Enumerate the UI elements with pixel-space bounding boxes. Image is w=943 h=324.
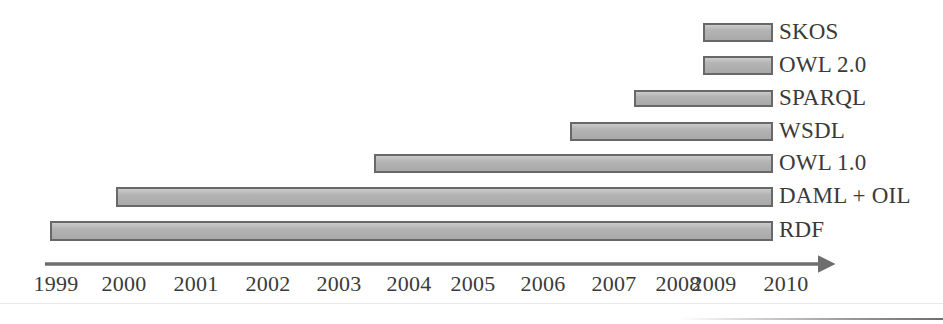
axis-tick-label: 2004	[386, 273, 431, 295]
bar-label: OWL 1.0	[779, 151, 866, 174]
axis-tick-label: 2007	[591, 273, 636, 295]
axis-tick-label: 1999	[33, 273, 78, 295]
bar-label: WSDL	[779, 119, 845, 142]
axis-tick-label: 2000	[101, 273, 146, 295]
bar-label: RDF	[779, 218, 824, 241]
axis-tick-label: 2010	[763, 273, 808, 295]
axis-tick-label: 2001	[173, 273, 218, 295]
timeline-bar	[634, 90, 773, 107]
axis-tick-label: 2005	[450, 273, 495, 295]
scan-artifact-lower	[0, 318, 943, 320]
bar-label: DAML + OIL	[779, 184, 911, 207]
axis-tick-label: 2006	[520, 273, 565, 295]
bar-label: SKOS	[779, 20, 839, 43]
timeline-bar	[703, 56, 773, 75]
timeline-bar	[374, 154, 773, 173]
axis-tick-label: 2003	[316, 273, 361, 295]
timeline-bar	[570, 122, 773, 141]
axis-tick-label: 2009	[691, 273, 736, 295]
timeline-bar	[116, 187, 773, 207]
axis-tick-label: 2002	[245, 273, 290, 295]
bar-label: SPARQL	[779, 86, 866, 109]
timeline-bar	[50, 221, 773, 241]
timeline-bar	[703, 23, 773, 42]
scan-artifact-upper	[0, 303, 943, 304]
bar-label: OWL 2.0	[779, 53, 866, 76]
timeline-chart: SKOSOWL 2.0SPARQLWSDLOWL 1.0DAML + OILRD…	[0, 0, 943, 324]
